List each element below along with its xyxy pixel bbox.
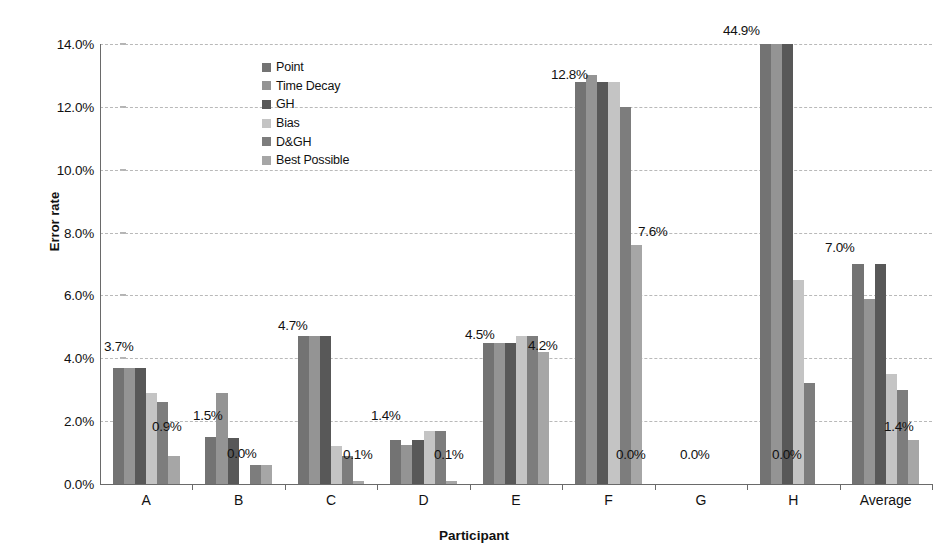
bar[interactable] bbox=[782, 44, 793, 484]
bar[interactable] bbox=[124, 368, 135, 484]
bar[interactable] bbox=[157, 402, 168, 484]
bar-groups bbox=[100, 44, 932, 484]
bar-group bbox=[562, 44, 654, 484]
bar[interactable] bbox=[205, 437, 216, 484]
bar-value-label: 4.2% bbox=[528, 338, 558, 353]
bar-value-label: 1.4% bbox=[371, 408, 401, 423]
y-tick-label: 0.0% bbox=[32, 477, 94, 492]
bar-value-label: 12.8% bbox=[551, 67, 588, 82]
bar[interactable] bbox=[575, 82, 586, 484]
bar-value-label: 7.6% bbox=[638, 224, 668, 239]
legend-label: Point bbox=[276, 60, 304, 74]
y-tick-label: 8.0% bbox=[32, 225, 94, 240]
legend-item[interactable]: Best Possible bbox=[262, 151, 412, 170]
bar[interactable] bbox=[505, 343, 516, 484]
legend-swatch-icon bbox=[262, 137, 271, 146]
y-tick-label: 10.0% bbox=[32, 162, 94, 177]
bar-value-label: 44.9% bbox=[723, 23, 760, 38]
bar[interactable] bbox=[261, 465, 272, 484]
error-rate-bar-chart: Error rate 0.0%2.0%4.0%6.0%8.0%10.0%12.0… bbox=[0, 0, 948, 556]
x-tick-mark bbox=[655, 484, 656, 490]
bar[interactable] bbox=[760, 44, 771, 484]
bar[interactable] bbox=[852, 264, 863, 484]
legend-label: Time Decay bbox=[276, 79, 340, 93]
bar[interactable] bbox=[620, 107, 631, 484]
bars bbox=[113, 44, 180, 484]
y-tick-label: 4.0% bbox=[32, 351, 94, 366]
bar[interactable] bbox=[401, 445, 412, 484]
y-axis-ticks: 0.0%2.0%4.0%6.0%8.0%10.0%12.0%14.0% bbox=[26, 44, 94, 484]
bar[interactable] bbox=[483, 343, 494, 484]
bar-group bbox=[840, 44, 932, 484]
x-axis-tick-marks bbox=[100, 484, 932, 490]
bar[interactable] bbox=[875, 264, 886, 484]
bar[interactable] bbox=[298, 336, 309, 484]
bar-value-label: 1.5% bbox=[193, 408, 223, 423]
bar[interactable] bbox=[216, 393, 227, 484]
bar-group bbox=[747, 44, 839, 484]
bar[interactable] bbox=[113, 368, 124, 484]
x-tick-mark bbox=[747, 484, 748, 490]
y-axis-line bbox=[100, 44, 101, 485]
bar[interactable] bbox=[309, 336, 320, 484]
x-tick-label: C bbox=[285, 492, 377, 514]
bars bbox=[668, 44, 735, 484]
bar-value-label: 0.0% bbox=[680, 447, 710, 462]
bar[interactable] bbox=[250, 465, 261, 484]
bar-value-label: 0.0% bbox=[227, 446, 257, 461]
bar-value-label: 0.1% bbox=[343, 447, 373, 462]
bar[interactable] bbox=[331, 446, 342, 484]
bar[interactable] bbox=[320, 336, 331, 484]
bar[interactable] bbox=[897, 390, 908, 484]
bar[interactable] bbox=[908, 440, 919, 484]
legend-label: GH bbox=[276, 97, 294, 111]
x-tick-mark bbox=[840, 484, 841, 490]
x-tick-mark bbox=[470, 484, 471, 490]
bar[interactable] bbox=[597, 82, 608, 484]
legend: PointTime DecayGHBiasD&GHBest Possible bbox=[262, 58, 412, 170]
legend-item[interactable]: Time Decay bbox=[262, 77, 412, 96]
y-tick-label: 14.0% bbox=[32, 37, 94, 52]
y-tick-label: 2.0% bbox=[32, 414, 94, 429]
x-tick-label: G bbox=[655, 492, 747, 514]
legend-label: D&GH bbox=[276, 135, 311, 149]
bar[interactable] bbox=[168, 456, 179, 484]
legend-swatch-icon bbox=[262, 63, 271, 72]
bar[interactable] bbox=[390, 440, 401, 484]
legend-item[interactable]: Point bbox=[262, 58, 412, 77]
x-tick-mark bbox=[932, 484, 933, 490]
bar-group bbox=[470, 44, 562, 484]
bar-group bbox=[655, 44, 747, 484]
legend-swatch-icon bbox=[262, 81, 271, 90]
bar-value-label: 0.0% bbox=[772, 447, 802, 462]
bar[interactable] bbox=[538, 352, 549, 484]
bar[interactable] bbox=[864, 299, 875, 484]
legend-label: Bias bbox=[276, 116, 300, 130]
bar-value-label: 4.7% bbox=[278, 318, 308, 333]
x-axis-title: Participant bbox=[0, 528, 948, 543]
legend-swatch-icon bbox=[262, 156, 271, 165]
bar[interactable] bbox=[135, 368, 146, 484]
bar[interactable] bbox=[146, 393, 157, 484]
bar[interactable] bbox=[586, 75, 597, 484]
legend-label: Best Possible bbox=[276, 153, 349, 167]
bar[interactable] bbox=[608, 82, 619, 484]
y-tick-label: 6.0% bbox=[32, 288, 94, 303]
bar[interactable] bbox=[412, 440, 423, 484]
legend-item[interactable]: D&GH bbox=[262, 132, 412, 151]
legend-item[interactable]: Bias bbox=[262, 114, 412, 133]
bar-value-label: 0.0% bbox=[616, 447, 646, 462]
legend-item[interactable]: GH bbox=[262, 95, 412, 114]
bar[interactable] bbox=[771, 44, 782, 484]
bar[interactable] bbox=[527, 336, 538, 484]
bar[interactable] bbox=[516, 336, 527, 484]
bar[interactable] bbox=[424, 431, 435, 484]
x-tick-label: A bbox=[100, 492, 192, 514]
bar[interactable] bbox=[494, 343, 505, 484]
x-tick-label: Average bbox=[840, 492, 932, 514]
x-tick-label: H bbox=[747, 492, 839, 514]
bar[interactable] bbox=[804, 383, 815, 484]
bar-value-label: 3.7% bbox=[104, 339, 134, 354]
bar-value-label: 7.0% bbox=[825, 240, 855, 255]
legend-swatch-icon bbox=[262, 119, 271, 128]
